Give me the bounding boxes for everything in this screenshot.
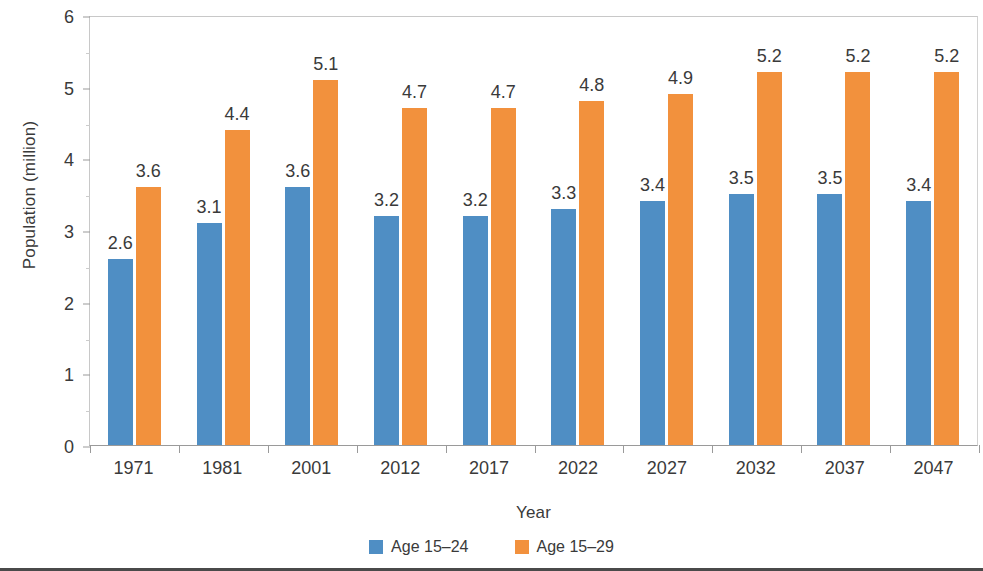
y-axis-tick-mark [83,303,90,304]
x-axis-tick-label: 2017 [445,458,534,479]
bar-value-label: 2.6 [108,234,133,252]
bar-column: 3.3 [551,17,576,445]
bar[interactable] [845,72,870,445]
bar-group: 2.63.6 [90,17,179,445]
y-axis-tick-mark [83,232,90,233]
bar-column: 3.6 [136,17,161,445]
bar-column: 3.5 [729,17,754,445]
bar-value-label: 4.8 [579,76,604,94]
y-axis-tick-mark [83,160,90,161]
legend-item[interactable]: Age 15–24 [369,538,468,556]
bar-group: 3.34.8 [534,17,623,445]
x-axis-tick-label: 2027 [622,458,711,479]
x-axis-tick-label: 2001 [267,458,356,479]
bar-column: 3.4 [906,17,931,445]
x-axis-tick-label: 2012 [356,458,445,479]
bar-column: 3.6 [285,17,310,445]
y-axis-tick-mark [83,375,90,376]
bar-value-label: 5.2 [757,47,782,65]
bar-column: 4.4 [225,17,250,445]
x-axis-tick-label: 2047 [889,458,978,479]
bar-group: 3.24.7 [445,17,534,445]
bar[interactable] [668,94,693,445]
x-axis-tick-mark [890,445,891,453]
x-axis-tick-mark [712,445,713,453]
legend-label: Age 15–24 [391,538,468,556]
x-axis-tick-mark [446,445,447,453]
bar-group: 3.24.7 [356,17,445,445]
bar-value-label: 3.5 [729,169,754,187]
bar[interactable] [136,187,161,445]
x-axis-tick-label: 1971 [89,458,178,479]
bar-value-label: 4.9 [668,69,693,87]
bar-value-label: 3.6 [136,162,161,180]
x-axis-tick-labels: 1971198120012012201720222027203220372047 [89,458,978,479]
bar-column: 3.1 [197,17,222,445]
bar-column: 3.2 [374,17,399,445]
y-axis-minor-tick-mark [86,53,90,54]
bar-value-label: 3.2 [463,191,488,209]
x-axis-tick-mark [623,445,624,453]
bar-group: 3.55.2 [800,17,889,445]
bar[interactable] [108,259,133,445]
bar-value-label: 3.2 [374,191,399,209]
bar-value-label: 5.2 [934,47,959,65]
bar-value-label: 3.6 [285,162,310,180]
y-axis-minor-tick-mark [86,196,90,197]
bar[interactable] [579,101,604,445]
bar-column: 3.2 [463,17,488,445]
x-axis-tick-mark [535,445,536,453]
bar[interactable] [313,80,338,446]
bar-value-label: 4.4 [225,105,250,123]
bar[interactable] [757,72,782,445]
bar[interactable] [463,216,488,445]
bar-column: 5.2 [845,17,870,445]
bar-group: 3.14.4 [179,17,268,445]
bar-group: 3.45.2 [888,17,977,445]
bar-column: 5.1 [313,17,338,445]
y-axis-minor-tick-mark [86,125,90,126]
bar-column: 4.9 [668,17,693,445]
bar[interactable] [374,216,399,445]
x-axis-tick-label: 2037 [800,458,889,479]
bar[interactable] [197,223,222,445]
legend-swatch-icon [515,540,529,554]
x-axis-tick-mark [179,445,180,453]
bar-group: 3.65.1 [267,17,356,445]
bar-value-label: 4.7 [491,83,516,101]
bar[interactable] [729,194,754,445]
bar[interactable] [817,194,842,445]
bar-chart: Population (million) 2.63.63.14.43.65.13… [0,0,983,571]
y-axis-tick-mark [83,447,90,448]
bar[interactable] [402,108,427,445]
bar-value-label: 3.3 [551,184,576,202]
x-axis-title: Year [89,503,978,523]
bar-column: 2.6 [108,17,133,445]
x-axis-tick-mark [90,445,91,453]
bar-value-label: 3.1 [197,198,222,216]
y-axis-minor-tick-mark [86,268,90,269]
bar[interactable] [934,72,959,445]
legend-item[interactable]: Age 15–29 [515,538,614,556]
chart-legend: Age 15–24Age 15–29 [0,538,983,556]
bar-value-label: 5.1 [313,55,338,73]
x-axis-tick-mark [801,445,802,453]
bar[interactable] [491,108,516,445]
bar-column: 4.7 [402,17,427,445]
x-axis-tick-label: 2032 [711,458,800,479]
bar-column: 3.4 [640,17,665,445]
bar[interactable] [640,201,665,445]
bar[interactable] [906,201,931,445]
y-axis-tick-mark [83,17,90,18]
y-axis-tick-mark [83,88,90,89]
x-axis-tick-label: 1981 [178,458,267,479]
x-axis-tick-mark [357,445,358,453]
bar-group: 3.55.2 [711,17,800,445]
plot-area: 2.63.63.14.43.65.13.24.73.24.73.34.83.44… [89,16,978,446]
x-axis-tick-mark [268,445,269,453]
bar[interactable] [225,130,250,445]
y-axis-minor-tick-mark [86,411,90,412]
bar-column: 5.2 [757,17,782,445]
bar[interactable] [285,187,310,445]
bar[interactable] [551,209,576,446]
